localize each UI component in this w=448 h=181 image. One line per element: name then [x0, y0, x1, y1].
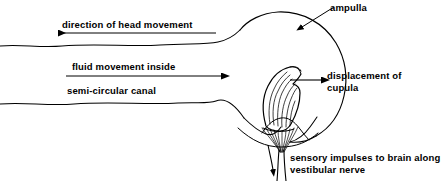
label-fluid-movement-line1: fluid movement inside: [72, 61, 175, 73]
label-sensory-line1: sensory impulses to brain along: [290, 152, 440, 164]
canal-upper-wall: [0, 30, 240, 47]
semicircular-canal-diagram: direction of head movement fluid movemen…: [0, 0, 448, 181]
label-ampulla: ampulla: [330, 2, 367, 14]
canal-lower-wall: [0, 100, 244, 118]
vestibular-nerve-trunk-left: [277, 150, 279, 181]
label-sensory-impulses: sensory impulses to brain along vestibul…: [290, 152, 440, 176]
label-displacement-line1: displacement of: [327, 70, 402, 82]
vestibular-nerve-trunk-right: [284, 150, 286, 181]
label-sensory-line2: vestibular nerve: [290, 164, 440, 176]
label-fluid-movement-line2: semi-circular canal: [67, 85, 156, 97]
label-displacement-line2: cupula: [327, 82, 402, 94]
ampulla-lower-right-wall: [290, 136, 316, 142]
label-head-movement: direction of head movement: [62, 19, 193, 31]
label-displacement-of-cupula: displacement of cupula: [327, 70, 402, 94]
nerve-impulse-arrow: [268, 145, 273, 170]
